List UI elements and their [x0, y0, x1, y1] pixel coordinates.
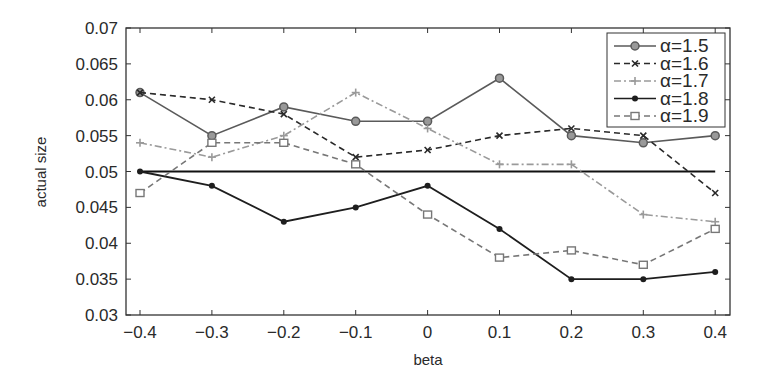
- y-tick-label: 0.06: [85, 91, 118, 110]
- x-tick-label: −0.3: [195, 323, 229, 342]
- x-tick-label: −0.1: [339, 323, 373, 342]
- x-tick-label: −0.2: [267, 323, 301, 342]
- x-axis-label: beta: [413, 351, 443, 368]
- line-chart: 0.030.0350.040.0450.050.0550.060.0650.07…: [0, 0, 762, 386]
- y-tick-label: 0.035: [75, 270, 118, 289]
- x-tick-label: 0.1: [488, 323, 512, 342]
- y-tick-label: 0.03: [85, 306, 118, 325]
- y-tick-label: 0.05: [85, 163, 118, 182]
- y-tick-label: 0.07: [85, 19, 118, 38]
- x-tick-label: 0: [423, 323, 432, 342]
- x-tick-label: 0.3: [631, 323, 655, 342]
- legend: α=1.5α=1.6α=1.7α=1.8α=1.9: [607, 33, 725, 127]
- y-tick-label: 0.065: [75, 55, 118, 74]
- y-axis-label: actual size: [32, 137, 49, 208]
- x-tick-label: 0.2: [560, 323, 584, 342]
- y-tick-label: 0.04: [85, 234, 118, 253]
- y-tick-label: 0.045: [75, 198, 118, 217]
- y-tick-label: 0.055: [75, 127, 118, 146]
- x-tick-label: −0.4: [123, 323, 157, 342]
- x-tick-label: 0.4: [703, 323, 727, 342]
- legend-label: α=1.9: [660, 105, 709, 126]
